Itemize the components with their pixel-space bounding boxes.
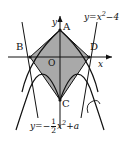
eq2-fraction: 12 [51,118,56,134]
point-D-dot [87,55,90,58]
point-label-C: C [62,99,70,109]
y-axis-label: y [52,18,57,27]
point-B-dot [28,55,31,58]
x-axis-label: x [98,60,103,69]
eq2-equals: = [35,121,43,131]
eq2-numerator: 1 [51,118,56,125]
point-label-B: B [16,42,23,52]
point-label-A: A [63,22,70,32]
point-label-D: D [90,42,98,52]
eq2-sign: − [43,121,51,131]
equation-downward-parabola: y=−12x2+a [30,118,79,134]
math-figure: A B C D O x y y=x2−4 y=−12x2+a [0,0,136,142]
point-A-dot [58,28,61,31]
origin-label: O [48,59,55,68]
x-axis-arrow [106,54,112,59]
eq2-tail: +a [66,121,79,131]
eq2-denominator: 2 [51,127,56,134]
eq1-equals: = [89,12,97,22]
equation-upward-parabola: y=x2−4 [84,13,119,22]
y-axis-arrow [57,16,62,22]
eq1-tail: −4 [106,12,119,22]
